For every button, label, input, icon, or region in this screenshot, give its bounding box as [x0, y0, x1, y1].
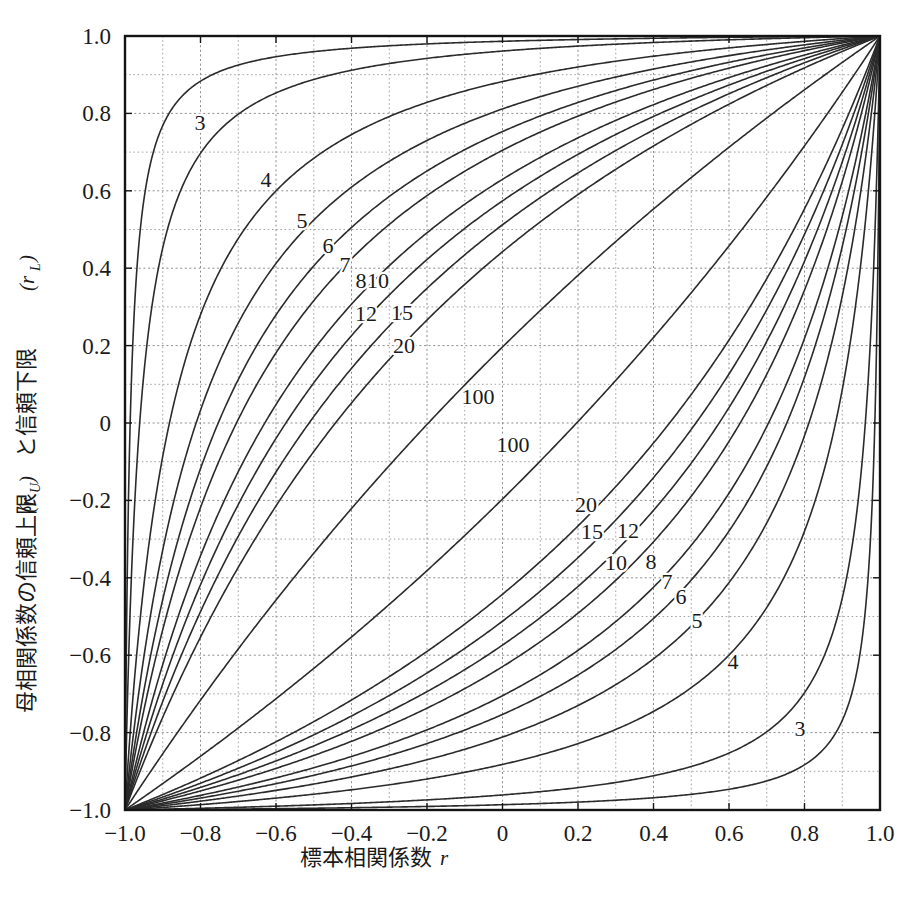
curve-label-4: 4	[728, 649, 739, 674]
x-axis-title: 標本相関係数 r	[300, 845, 449, 870]
curve-label-15: 15	[581, 519, 603, 544]
curve-label-7: 7	[662, 569, 673, 594]
y-tick-label: 0.8	[82, 101, 111, 126]
curve-label-8: 8	[646, 549, 657, 574]
y-tick-label: 0.2	[82, 334, 111, 359]
curve-label-20: 20	[393, 333, 415, 358]
x-tick-label: −0.8	[180, 821, 222, 846]
curve-label-15: 15	[391, 300, 413, 325]
y-tick-label: −1.0	[69, 798, 111, 823]
curve-label-6: 6	[323, 233, 334, 258]
y-axis-title-ru-open: (r	[15, 497, 39, 513]
x-tick-label: 1.0	[866, 821, 895, 846]
x-tick-label: 0.2	[564, 821, 593, 846]
x-axis-title-variable: r	[440, 846, 449, 870]
curve-label-100: 100	[497, 432, 530, 457]
curve-label-20: 20	[575, 492, 597, 517]
y-tick-label: −0.2	[69, 488, 111, 513]
y-tick-label: −0.8	[69, 721, 111, 746]
curve-label-5: 5	[692, 608, 703, 633]
x-tick-label: 0.8	[790, 821, 819, 846]
correlation-confidence-chart: −1.0−0.8−0.6−0.4−0.200.20.40.60.81.0 1.0…	[0, 0, 918, 901]
curve-label-8: 8	[356, 268, 367, 293]
chart-canvas: −1.0−0.8−0.6−0.4−0.200.20.40.60.81.0 1.0…	[0, 0, 918, 901]
curve-label-7: 7	[340, 252, 351, 277]
curve-label-3: 3	[195, 110, 206, 135]
x-tick-label: −1.0	[104, 821, 146, 846]
y-tick-label: 0.4	[82, 256, 111, 281]
curve-label-12: 12	[355, 301, 377, 326]
y-axis-title-rl-open: (r	[15, 275, 39, 291]
y-axis-title-ru-close: )	[15, 476, 39, 484]
curve-label-100: 100	[462, 384, 495, 409]
y-axis-title-part2: と信頼下限	[14, 348, 39, 458]
y-tick-label: −0.6	[69, 643, 111, 668]
curve-label-10: 10	[605, 550, 627, 575]
y-axis-title-part1: 母相関係数の信頼上限	[14, 493, 39, 713]
x-tick-label: 0	[497, 821, 509, 846]
curve-label-12: 12	[617, 518, 639, 543]
y-tick-label: −0.4	[69, 566, 111, 591]
x-tick-label: −0.2	[406, 821, 448, 846]
curve-label-3: 3	[795, 716, 806, 741]
x-axis-title-text: 標本相関係数	[300, 845, 432, 870]
y-tick-label: 1.0	[82, 24, 111, 49]
curve-label-5: 5	[297, 208, 308, 233]
x-tick-label: 0.6	[715, 821, 744, 846]
y-axis-title-rl-sub: L	[28, 263, 43, 272]
y-tick-label: 0	[100, 411, 112, 436]
x-tick-label: −0.4	[331, 821, 373, 846]
y-tick-label: 0.6	[82, 179, 111, 204]
x-tick-label: −0.6	[255, 821, 297, 846]
curve-label-6: 6	[676, 584, 687, 609]
x-tick-label: 0.4	[639, 821, 668, 846]
curve-label-4: 4	[261, 167, 272, 192]
curve-label-10: 10	[367, 268, 389, 293]
y-axis-title-rl-close: )	[15, 255, 39, 263]
